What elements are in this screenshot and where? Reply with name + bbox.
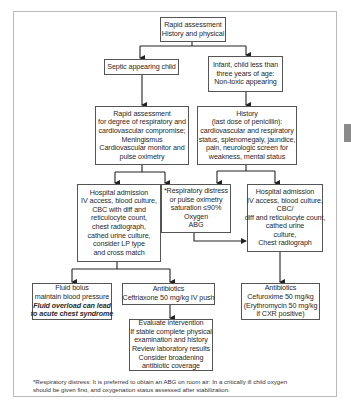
node-text: pulse oximetry: [120, 153, 165, 162]
node-text: Chest radiograph: [258, 239, 312, 248]
footnote: *Respiratory distress: It is preferred t…: [33, 378, 333, 395]
node-hospital-admission-left: Hospital admission IV access, blood cult…: [77, 184, 161, 262]
node-text: Septic appearing child: [107, 63, 176, 72]
node-evaluate-intervention: Evaluate intervention If stable complete…: [129, 319, 213, 371]
node-text: and cross match: [93, 249, 144, 258]
node-antibiotics-ceftriaxone: Antibiotics Ceftriaxone 50 mg/kg IV push: [122, 283, 215, 305]
footnote-line: *Respiratory distress: It is preferred t…: [33, 378, 333, 386]
node-history: History (last dose of penicillin): cardi…: [197, 106, 297, 165]
node-hospital-admission-right: Hospital admission IV access, blood cult…: [247, 184, 323, 252]
node-fluid-bolus: Fluid bolus maintain blood pressure Flui…: [32, 283, 112, 320]
node-antibiotics-cefuroxime: Antibiotics Cefuroxime 50 mg/kg (Erythro…: [241, 283, 320, 320]
node-respiratory-distress: *Respiratory distress or pulse oximetry …: [161, 184, 231, 233]
node-septic-appearing-child: Septic appearing child: [104, 59, 179, 75]
node-text: Non-toxic appearing: [214, 78, 276, 87]
node-text: Ceftriaxone 50 mg/kg IV push: [123, 294, 215, 303]
node-rapid-assessment-degree: Rapid assessment for degree of respirato…: [95, 106, 189, 165]
node-rapid-assessment: Rapid assessment History and physical: [160, 17, 226, 42]
node-text: antibiotic coverage: [142, 362, 200, 371]
footnote-line: should be given first, and oxygenation s…: [33, 386, 333, 394]
node-text: ABG: [189, 221, 204, 230]
node-infant-non-toxic: Infant, child less than three years of a…: [208, 56, 283, 92]
node-text: History and physical: [162, 30, 224, 39]
node-text: weakness, mental status: [209, 153, 285, 162]
node-text: if CXR positive): [257, 310, 305, 319]
warning-text: to acute chest syndrome: [31, 310, 113, 319]
